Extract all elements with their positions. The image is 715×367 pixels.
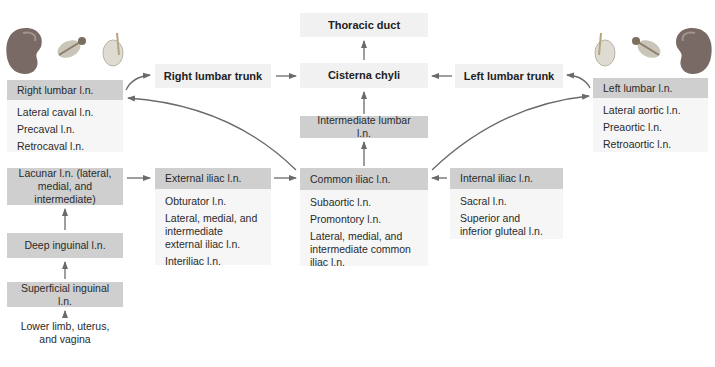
arrow-common-to-rln xyxy=(128,98,296,170)
arrow-rln-to-rtrunk xyxy=(126,75,150,90)
list-item: Sacral l.n. xyxy=(460,195,553,208)
list-item: Promontory l.n. xyxy=(310,213,418,226)
intermediate-lumbar-box: Intermediate lumbar l.n. xyxy=(300,116,428,138)
list-item: Retroaortic l.n. xyxy=(603,138,698,151)
testis-icon xyxy=(595,33,615,66)
cisterna-chyli-box: Cisterna chyli xyxy=(300,63,428,88)
internal-iliac-list: Sacral l.n. Superior and inferior glutea… xyxy=(450,189,563,239)
superficial-inguinal-box: Superficial inguinal l.n. xyxy=(7,282,123,307)
left-lumbar-trunk-box: Left lumbar trunk xyxy=(455,64,563,88)
list-item: Lateral caval l.n. xyxy=(17,106,113,119)
arrow-common-to-lln xyxy=(432,96,589,170)
adrenal-gland-icon xyxy=(55,37,86,62)
kidney-icon xyxy=(6,28,42,74)
source-line-2: and vagina xyxy=(7,333,123,346)
organ-icons-left xyxy=(5,25,130,77)
deep-inguinal-box: Deep inguinal l.n. xyxy=(7,233,123,258)
common-iliac-list: Subaortic l.n. Promontory l.n. Lateral, … xyxy=(300,190,428,266)
internal-iliac-header: Internal iliac l.n. xyxy=(450,168,563,189)
list-item: Superior and inferior gluteal l.n. xyxy=(460,212,553,238)
left-lumbar-header: Left lumbar l.n. xyxy=(593,78,708,98)
testis-icon xyxy=(103,33,123,66)
source-label: Lower limb, uterus, and vagina xyxy=(7,320,123,346)
left-lumbar-list: Lateral aortic l.n. Preaortic l.n. Retro… xyxy=(593,98,708,152)
thoracic-duct-box: Thoracic duct xyxy=(300,13,428,37)
source-line-1: Lower limb, uterus, xyxy=(7,320,123,333)
list-item: Precaval l.n. xyxy=(17,123,113,136)
right-lumbar-header: Right lumbar l.n. xyxy=(7,80,123,100)
right-lumbar-list: Lateral caval l.n. Precaval l.n. Retroca… xyxy=(7,100,123,152)
list-item: Preaortic l.n. xyxy=(603,121,698,134)
arrow-lln-to-ltrunk xyxy=(567,75,590,88)
common-iliac-header: Common iliac l.n. xyxy=(300,168,428,190)
list-item: Lateral, medial, and intermediate common… xyxy=(310,230,418,269)
list-item: Retrocaval l.n. xyxy=(17,140,113,153)
list-item: Lateral aortic l.n. xyxy=(603,104,698,117)
list-item: Obturator l.n. xyxy=(165,195,261,208)
list-item: Lateral, medial, and intermediate extern… xyxy=(165,212,261,251)
right-lumbar-trunk-box: Right lumbar trunk xyxy=(155,64,271,88)
external-iliac-header: External iliac l.n. xyxy=(155,168,271,189)
organ-icons-right xyxy=(588,25,713,77)
kidney-icon xyxy=(676,28,712,74)
list-item: Subaortic l.n. xyxy=(310,196,418,209)
lacunar-box: Lacunar l.n. (lateral, medial, and inter… xyxy=(7,168,123,205)
external-iliac-list: Obturator l.n. Lateral, medial, and inte… xyxy=(155,189,271,265)
list-item: Interiliac l.n. xyxy=(165,255,261,268)
adrenal-gland-icon xyxy=(632,37,663,62)
